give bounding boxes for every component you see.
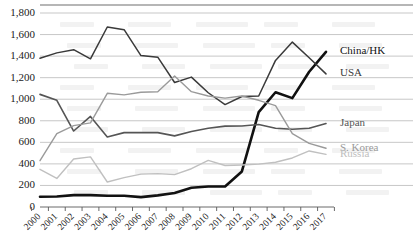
y-tick-label: 1,000 xyxy=(10,92,35,104)
x-tick-label: 2006 xyxy=(123,211,144,232)
y-tick-label: 1,800 xyxy=(10,6,35,18)
x-tick-label: 2008 xyxy=(156,211,177,232)
y-tick-label: 1,600 xyxy=(10,28,35,40)
x-tick-label: 2013 xyxy=(241,211,262,232)
series-label-russia: Russia xyxy=(340,147,369,159)
x-tick-label: 2011 xyxy=(207,211,227,231)
y-tick-label: 0 xyxy=(30,200,36,212)
chart-container: 02004006008001,0001,2001,4001,6001,800 2… xyxy=(0,0,419,249)
x-tick-label: 2010 xyxy=(190,211,211,232)
x-tick-label: 2003 xyxy=(72,211,93,232)
x-axis-tick-labels: 2000200120022003200420052006200720082009… xyxy=(22,211,329,232)
series-legend-labels: China/HKUSAJapanS. KoreaRussia xyxy=(340,44,385,159)
y-axis-tick-labels: 02004006008001,0001,2001,4001,6001,800 xyxy=(10,6,35,212)
x-tick-label: 2002 xyxy=(56,211,77,232)
x-tick-label: 2001 xyxy=(39,211,60,232)
gridlines xyxy=(40,13,413,185)
y-tick-label: 600 xyxy=(19,135,36,147)
y-tick-label: 200 xyxy=(19,178,36,190)
x-tick-label: 2004 xyxy=(89,211,110,232)
y-tick-label: 1,200 xyxy=(10,71,35,83)
x-axis xyxy=(32,207,335,211)
x-tick-label: 2017 xyxy=(308,211,329,232)
x-tick-label: 2012 xyxy=(224,211,245,232)
x-tick-label: 2009 xyxy=(173,211,194,232)
series-label-japan: Japan xyxy=(340,116,366,128)
x-tick-label: 2000 xyxy=(22,211,43,232)
series-label-usa: USA xyxy=(340,66,362,78)
x-tick-label: 2015 xyxy=(274,211,295,232)
y-tick-label: 400 xyxy=(19,157,36,169)
line-chart: 02004006008001,0001,2001,4001,6001,800 2… xyxy=(0,0,419,249)
y-tick-label: 800 xyxy=(19,114,36,126)
x-tick-label: 2014 xyxy=(257,211,278,232)
x-tick-label: 2005 xyxy=(106,211,127,232)
x-tick-label: 2016 xyxy=(291,211,312,232)
series-label-china-hk: China/HK xyxy=(340,44,385,56)
y-tick-label: 1,400 xyxy=(10,49,35,61)
x-tick-label: 2007 xyxy=(140,211,161,232)
series-line-russia xyxy=(40,151,326,182)
